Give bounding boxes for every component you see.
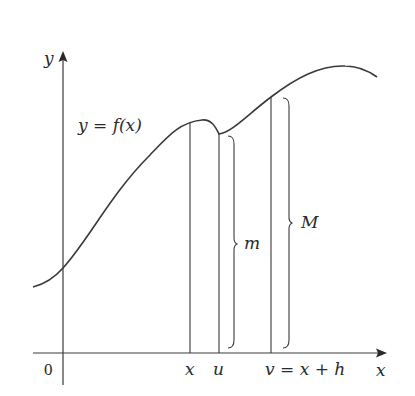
diagram-canvas: y x 0 y = f(x) x u v = x + h m M: [0, 0, 415, 396]
origin-label: 0: [44, 360, 53, 379]
tick-label-v: v = x + h: [265, 359, 345, 379]
function-curve: [33, 66, 377, 287]
brace-m-icon: [228, 136, 237, 348]
vertical-lines: [190, 97, 271, 353]
tick-label-x: x: [185, 359, 195, 379]
curve-label: y = f(x): [77, 115, 142, 135]
brace-label-M: M: [300, 212, 319, 232]
brace-M-icon: [283, 98, 292, 348]
y-axis-label: y: [43, 48, 54, 68]
axes: [33, 60, 378, 385]
x-axis-label: x: [376, 360, 386, 380]
brace-label-m: m: [244, 233, 260, 253]
tick-label-u: u: [213, 359, 224, 379]
